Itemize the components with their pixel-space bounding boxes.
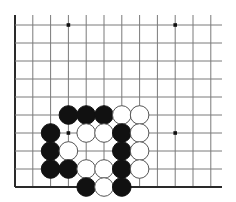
white-stone[interactable] (113, 106, 132, 125)
white-stone[interactable] (77, 160, 96, 179)
white-stone[interactable] (95, 160, 114, 179)
black-stone[interactable] (41, 160, 60, 179)
black-stone[interactable] (77, 106, 96, 125)
black-stone[interactable] (59, 160, 78, 179)
white-stone[interactable] (130, 160, 149, 179)
black-stone[interactable] (59, 106, 78, 125)
white-stone[interactable] (130, 124, 149, 143)
black-stone[interactable] (95, 106, 114, 125)
star-point-icon (173, 23, 177, 27)
white-stone[interactable] (77, 124, 96, 143)
black-stone[interactable] (113, 160, 132, 179)
white-stone[interactable] (95, 124, 114, 143)
go-board[interactable] (0, 0, 236, 202)
black-stone[interactable] (113, 142, 132, 161)
black-stone[interactable] (113, 178, 132, 197)
white-stone[interactable] (59, 142, 78, 161)
black-stone[interactable] (41, 142, 60, 161)
white-stone[interactable] (130, 106, 149, 125)
white-stone[interactable] (95, 178, 114, 197)
black-stone[interactable] (77, 178, 96, 197)
star-point-icon (173, 131, 177, 135)
black-stone[interactable] (113, 124, 132, 143)
black-stone[interactable] (41, 124, 60, 143)
star-point-icon (67, 23, 71, 27)
star-point-icon (67, 131, 71, 135)
white-stone[interactable] (130, 142, 149, 161)
